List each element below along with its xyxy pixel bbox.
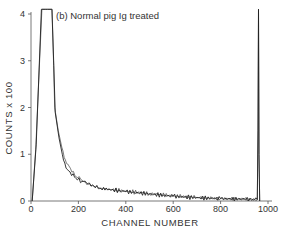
y-tick-label: 1 <box>20 149 25 159</box>
y-tick-label: 0 <box>20 196 25 206</box>
x-tick-label: 400 <box>118 204 133 214</box>
x-tick-label: 800 <box>213 204 228 214</box>
y-axis-label: COUNTS x 100 <box>3 81 14 154</box>
y-axis: 01234 <box>20 9 31 206</box>
counts-vs-channel-chart: 01234 02004006008001000 (b) Normal pig I… <box>0 0 288 236</box>
x-tick-label: 600 <box>166 204 181 214</box>
x-tick-label: 0 <box>28 204 33 214</box>
x-axis: 02004006008001000 <box>28 201 278 214</box>
x-axis-label: CHANNEL NUMBER <box>101 217 198 228</box>
y-tick-label: 2 <box>20 103 25 113</box>
y-ticks: 01234 <box>20 9 31 206</box>
chart-title: (b) Normal pig Ig treated <box>56 10 159 21</box>
x-tick-label: 1000 <box>258 204 278 214</box>
series-line <box>32 9 260 201</box>
y-tick-label: 4 <box>20 9 25 19</box>
y-tick-label: 3 <box>20 56 25 66</box>
series-line <box>32 9 260 201</box>
data-series <box>32 9 260 201</box>
x-ticks: 02004006008001000 <box>28 201 278 214</box>
x-tick-label: 200 <box>71 204 86 214</box>
